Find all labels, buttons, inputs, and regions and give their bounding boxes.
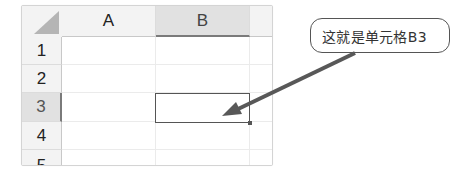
column-header-c[interactable]: [250, 6, 273, 37]
cell-c2[interactable]: [250, 65, 273, 93]
cell-b3-active[interactable]: [155, 93, 250, 123]
cell-a4[interactable]: [62, 122, 156, 150]
column-header-b[interactable]: B: [156, 6, 250, 37]
row-header-4[interactable]: 4: [22, 122, 62, 150]
callout-text: 这就是单元格B3: [322, 26, 427, 46]
cell-b1[interactable]: [156, 37, 250, 65]
row-header-1[interactable]: 1: [22, 37, 62, 65]
select-all-triangle-icon: [22, 6, 62, 37]
cell-c1[interactable]: [250, 37, 273, 65]
cell-c3[interactable]: [250, 93, 273, 122]
cell-a5[interactable]: [62, 150, 156, 166]
select-all-corner[interactable]: [22, 6, 63, 38]
callout-bubble: 这就是单元格B3: [310, 18, 450, 53]
cell-c4[interactable]: [250, 122, 273, 150]
spreadsheet-grid: A B 1 2 3 4 5: [21, 5, 273, 166]
cell-b2[interactable]: [156, 65, 250, 93]
cell-c5[interactable]: [250, 150, 273, 166]
cell-b5[interactable]: [156, 150, 250, 166]
cell-a2[interactable]: [62, 65, 156, 93]
column-header-a[interactable]: A: [62, 6, 156, 37]
cell-a3[interactable]: [62, 93, 156, 122]
cell-b4[interactable]: [156, 122, 250, 150]
cell-a1[interactable]: [62, 37, 156, 65]
row-header-3[interactable]: 3: [22, 93, 62, 122]
row-header-2[interactable]: 2: [22, 65, 62, 93]
row-header-5[interactable]: 5: [22, 150, 62, 166]
fill-handle[interactable]: [248, 121, 252, 125]
